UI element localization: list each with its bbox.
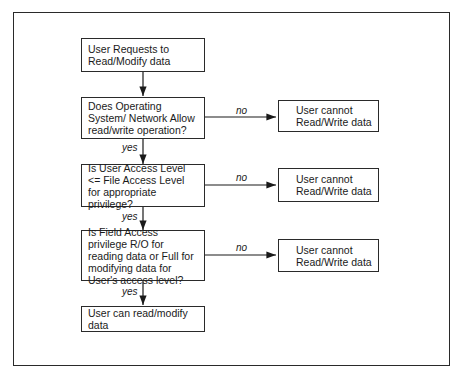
edge-label-no-3: no	[236, 242, 247, 253]
node-end-text: User can read/modify data	[88, 307, 198, 331]
node-field-access-check: Is Field Access privilege R/O for readin…	[81, 230, 205, 281]
node-q2-text: Is User Access Level <= File Access Leve…	[88, 162, 198, 210]
node-deny-3: User cannot Read/Write data	[278, 239, 379, 272]
node-deny2-text: User cannot Read/Write data	[296, 173, 372, 197]
node-deny-1: User cannot Read/Write data	[278, 100, 379, 132]
node-user-access-level-check: Is User Access Level <= File Access Leve…	[81, 164, 205, 207]
edge-label-yes-1: yes	[122, 142, 138, 153]
node-deny3-text: User cannot Read/Write data	[296, 244, 372, 268]
edge-label-no-1: no	[236, 105, 247, 116]
node-end-allowed: User can read/modify data	[81, 306, 205, 332]
node-deny1-text: User cannot Read/Write data	[296, 104, 372, 128]
node-q1-text: Does Operating System/ Network Allow rea…	[88, 100, 198, 136]
node-start-text: User Requests to Read/Modify data	[88, 43, 198, 67]
connector-lines	[0, 0, 461, 373]
node-q3-text: Is Field Access privilege R/O for readin…	[88, 226, 198, 286]
node-deny-2: User cannot Read/Write data	[278, 168, 379, 202]
node-start: User Requests to Read/Modify data	[81, 38, 205, 72]
edge-label-no-2: no	[236, 172, 247, 183]
edge-label-yes-2: yes	[122, 211, 138, 222]
node-os-network-check: Does Operating System/ Network Allow rea…	[81, 97, 205, 139]
edge-label-yes-3: yes	[122, 286, 138, 297]
